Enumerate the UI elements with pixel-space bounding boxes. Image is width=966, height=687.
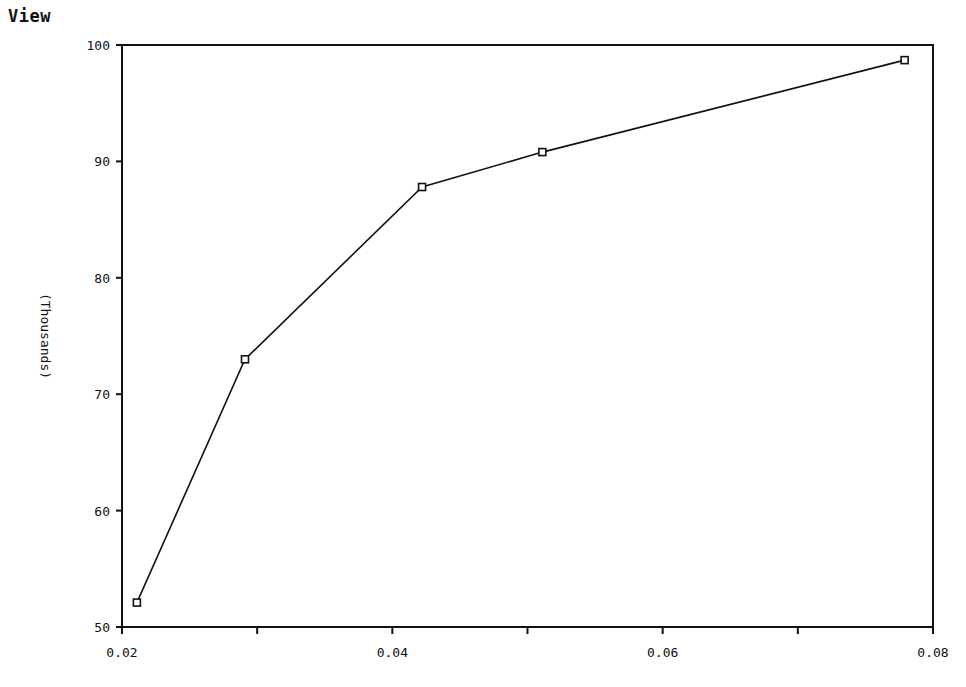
y-axis-label: (Thousands): [38, 293, 53, 379]
square-marker-icon: [242, 356, 249, 363]
data-series: [133, 57, 908, 606]
y-tick-label: 90: [94, 154, 110, 169]
square-marker-icon: [419, 184, 426, 191]
series-line: [137, 60, 905, 603]
y-tick-label: 80: [94, 271, 110, 286]
x-tick-label: 0.06: [647, 645, 678, 660]
y-tick-label: 60: [94, 504, 110, 519]
square-marker-icon: [539, 149, 546, 156]
y-tick-label: 100: [87, 38, 110, 53]
square-marker-icon: [133, 599, 140, 606]
chart-axes: [122, 45, 933, 627]
x-tick-label: 0.04: [377, 645, 408, 660]
y-tick-label: 70: [94, 387, 110, 402]
x-tick-label: 0.02: [106, 645, 137, 660]
plot-frame: [122, 45, 933, 627]
x-tick-label: 0.08: [917, 645, 948, 660]
line-chart: 50607080901000.020.040.060.08 (Thousands…: [0, 0, 966, 687]
y-tick-label: 50: [94, 620, 110, 635]
axis-ticks: 50607080901000.020.040.060.08: [87, 38, 949, 660]
square-marker-icon: [901, 57, 908, 64]
